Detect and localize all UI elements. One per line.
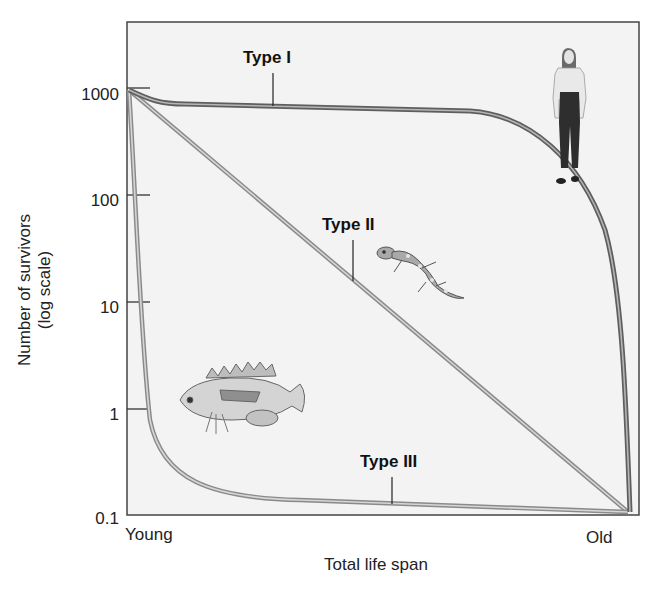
y-tick-1: 1 xyxy=(110,405,119,424)
x-label-young: Young xyxy=(125,525,173,544)
x-label-old: Old xyxy=(586,528,612,547)
y-axis-title: Number of survivors (log scale) xyxy=(15,214,54,366)
survivorship-chart: 1000 100 10 1 0.1 Young Old Total life s… xyxy=(0,0,653,597)
y-axis-title-line2: (log scale) xyxy=(35,251,54,329)
x-axis-title: Total life span xyxy=(324,555,428,574)
label-type-3: Type III xyxy=(360,452,417,471)
label-type-1: Type I xyxy=(243,48,291,67)
y-axis-title-line1: Number of survivors xyxy=(15,214,34,366)
y-tick-10: 10 xyxy=(100,298,119,317)
y-tick-100: 100 xyxy=(91,191,119,210)
label-type-2: Type II xyxy=(322,215,375,234)
y-tick-1000: 1000 xyxy=(81,85,119,104)
y-tick-0-1: 0.1 xyxy=(95,509,119,528)
